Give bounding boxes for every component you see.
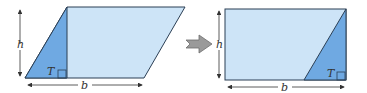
parallelogram: T	[25, 7, 185, 78]
rectangle: T	[225, 9, 346, 80]
height-dimension-right: h	[216, 11, 223, 78]
parallelogram-to-rectangle-diagram: T h b T h b	[0, 0, 367, 93]
arrow-right-icon	[186, 35, 212, 53]
height-label: h	[216, 38, 223, 51]
triangle-T-left	[25, 7, 67, 78]
height-dimension-left: h	[17, 10, 24, 76]
base-label: b	[81, 79, 88, 92]
base-dimension-left: b	[28, 79, 142, 92]
height-label: h	[17, 38, 24, 51]
base-label: b	[281, 81, 288, 93]
base-dimension-right: b	[228, 81, 344, 93]
